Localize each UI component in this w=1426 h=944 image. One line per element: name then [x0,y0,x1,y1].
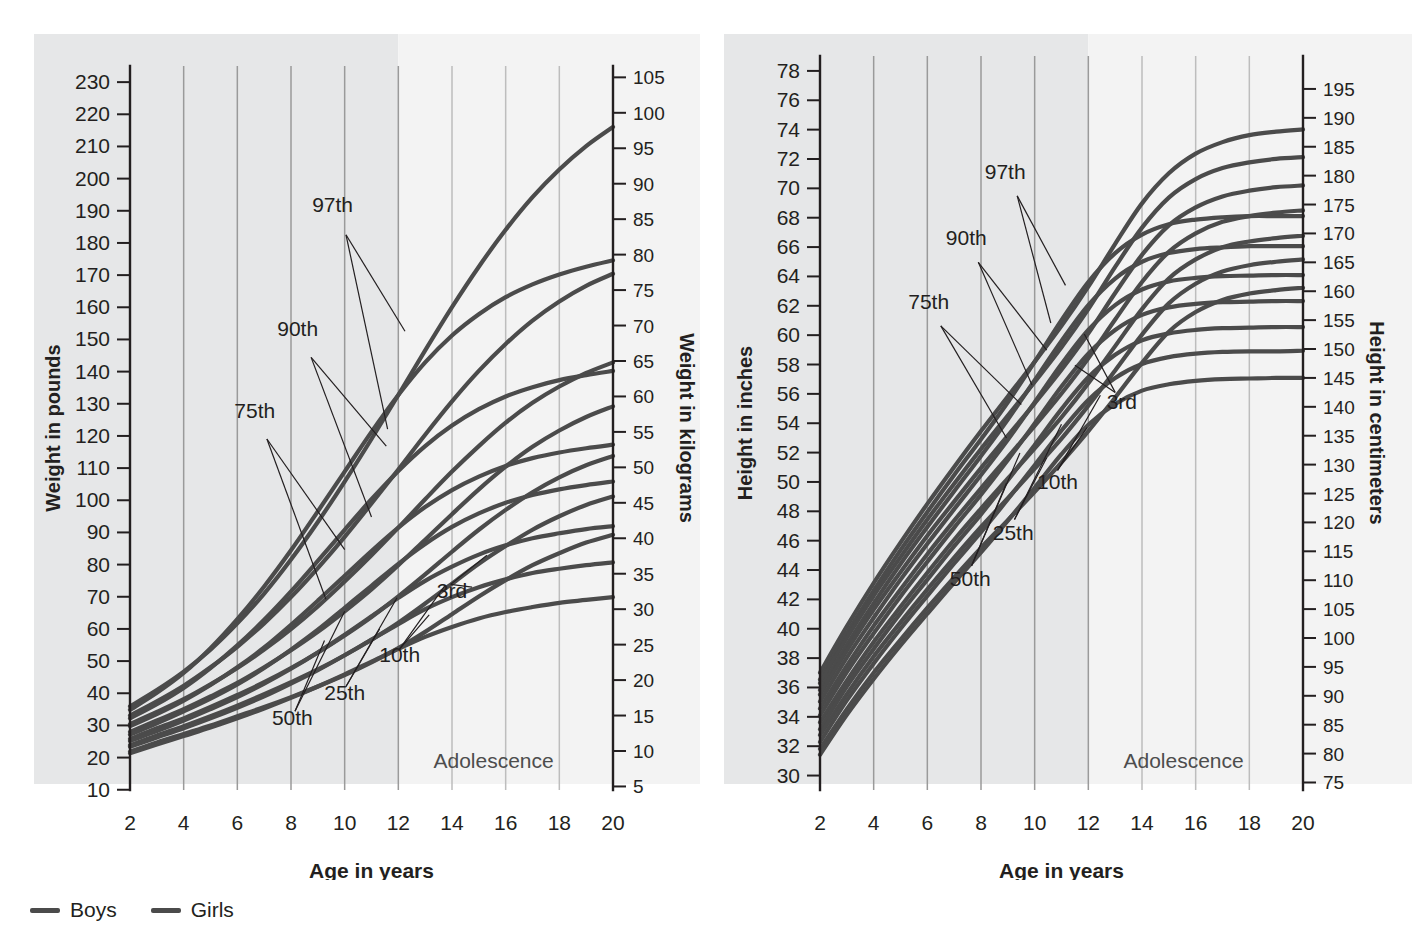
tick-label-right-130: 130 [1323,455,1355,476]
tick-label-left-44: 44 [777,558,801,581]
tick-label-left-66: 66 [777,235,800,258]
tick-label-left-220: 220 [75,102,110,125]
tick-label-right-135: 135 [1323,426,1355,447]
tick-label-left-50: 50 [777,470,800,493]
tick-label-left-160: 160 [75,295,110,318]
tick-label-left-140: 140 [75,360,110,383]
tick-label-right-30: 30 [633,599,654,620]
tick-label-left-100: 100 [75,488,110,511]
weight-for-age-chart: 1020304050607080901001101201301401501601… [0,0,713,880]
tick-label-x-4: 4 [178,811,190,834]
tick-label-x-16: 16 [1184,811,1207,834]
tick-label-right-85: 85 [633,209,654,230]
tick-label-right-115: 115 [1323,541,1353,562]
tick-label-right-90: 90 [1323,686,1344,707]
tick-label-right-100: 100 [1323,628,1355,649]
tick-label-x-20: 20 [1291,811,1314,834]
tick-label-left-150: 150 [75,327,110,350]
tick-label-right-185: 185 [1323,137,1355,158]
tick-label-right-50: 50 [633,457,654,478]
tick-label-right-10: 10 [633,741,654,762]
tick-label-left-52: 52 [777,441,800,464]
tick-label-x-6: 6 [921,811,933,834]
tick-label-right-20: 20 [633,670,654,691]
legend-item-girls: Girls [151,898,234,922]
height-for-age-chart: 3032343638404244464850525456586062646668… [700,0,1426,880]
percentile-label-3rd: 3rd [437,579,467,602]
legend-swatch-boys [30,908,60,913]
tick-label-right-195: 195 [1323,79,1355,100]
tick-label-left-10: 10 [87,778,110,801]
tick-label-x-18: 18 [1238,811,1261,834]
tick-label-right-5: 5 [633,776,644,797]
tick-label-left-54: 54 [777,411,801,434]
tick-label-left-190: 190 [75,199,110,222]
tick-label-right-25: 25 [633,635,654,656]
percentile-label-25th: 25th [324,681,365,704]
tick-label-right-190: 190 [1323,108,1355,129]
tick-label-x-10: 10 [1023,811,1046,834]
tick-label-right-15: 15 [633,706,654,727]
tick-label-right-125: 125 [1323,484,1355,505]
tick-label-right-160: 160 [1323,281,1355,302]
tick-label-x-12: 12 [1077,811,1100,834]
tick-label-left-76: 76 [777,88,800,111]
tick-label-x-4: 4 [868,811,880,834]
tick-label-x-12: 12 [387,811,410,834]
percentile-label-50th: 50th [950,567,991,590]
percentile-label-75th: 75th [908,290,949,313]
tick-label-x-2: 2 [814,811,826,834]
tick-label-left-34: 34 [777,705,801,728]
tick-label-right-75: 75 [633,280,654,301]
left-axis-title: Weight in pounds [42,344,64,511]
tick-label-right-55: 55 [633,422,654,443]
tick-label-left-120: 120 [75,424,110,447]
tick-label-right-80: 80 [1323,744,1344,765]
tick-label-right-85: 85 [1323,715,1344,736]
tick-label-right-95: 95 [1323,657,1344,678]
tick-label-left-60: 60 [777,323,800,346]
tick-label-left-170: 170 [75,263,110,286]
tick-label-right-45: 45 [633,493,654,514]
tick-label-left-60: 60 [87,617,110,640]
tick-label-left-30: 30 [777,764,800,787]
tick-label-left-40: 40 [777,617,800,640]
x-axis-title: Age in years [309,859,434,880]
tick-label-x-20: 20 [601,811,624,834]
weight-chart-svg: 1020304050607080901001101201301401501601… [0,0,713,880]
tick-label-x-14: 14 [1130,811,1154,834]
percentile-label-97th: 97th [312,193,353,216]
tick-label-x-16: 16 [494,811,517,834]
tick-label-left-40: 40 [87,681,110,704]
tick-label-left-46: 46 [777,529,800,552]
tick-label-x-14: 14 [440,811,464,834]
tick-label-left-110: 110 [77,456,110,479]
right-axis-title: Height in centimeters [1366,321,1388,524]
tick-label-right-105: 105 [633,67,665,88]
tick-label-x-8: 8 [285,811,297,834]
growth-charts-figure: 1020304050607080901001101201301401501601… [0,0,1426,944]
percentile-label-90th: 90th [946,226,987,249]
tick-label-left-68: 68 [777,206,800,229]
tick-label-left-80: 80 [87,553,110,576]
tick-label-left-74: 74 [777,118,801,141]
tick-label-x-18: 18 [548,811,571,834]
tick-label-left-48: 48 [777,499,800,522]
tick-label-left-42: 42 [777,587,800,610]
percentile-label-90th: 90th [277,317,318,340]
tick-label-left-20: 20 [87,746,110,769]
x-axis-title: Age in years [999,859,1124,880]
percentile-label-50th: 50th [272,706,313,729]
legend-item-boys: Boys [30,898,117,922]
tick-label-right-120: 120 [1323,512,1355,533]
tick-label-left-230: 230 [75,70,110,93]
tick-label-left-30: 30 [87,713,110,736]
tick-label-right-95: 95 [633,138,654,159]
tick-label-right-110: 110 [1323,570,1353,591]
tick-label-right-105: 105 [1323,599,1355,620]
tick-label-right-100: 100 [633,103,665,124]
tick-label-right-140: 140 [1323,397,1355,418]
tick-label-right-150: 150 [1323,339,1355,360]
tick-label-left-56: 56 [777,382,800,405]
tick-label-x-2: 2 [124,811,136,834]
